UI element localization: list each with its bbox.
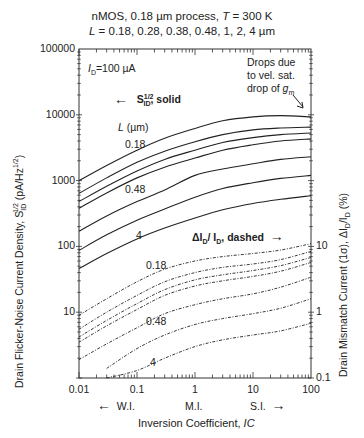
tick-label: 10000 [46,108,75,120]
region-weak-inversion: ← W.I. [97,397,135,413]
tick-label: 0.1 [316,371,331,383]
mismatch-curve [107,299,311,369]
tick-label: 10 [233,383,273,395]
curve-label-dashed-048: 0.48 [146,315,166,327]
curve-label-dashed-018: 0.18 [146,259,166,271]
tick-label: 10 [316,239,328,251]
mismatch-curve [107,323,311,378]
noise-curve [79,116,311,181]
tick-label: 1 [316,305,322,317]
region-strong-inversion: S.I. → [250,397,286,413]
noise-curve [79,133,311,202]
plot-area [0,0,364,438]
solid-legend-label: ← S1/2ID, solid [114,90,181,107]
noise-curve [79,157,311,231]
velocity-saturation-note: Drops due to vel. sat. drop of gm [247,56,295,99]
y-axis-right-label: Drain Mismatch Current (1σ), ΔID/ID (%) [337,193,351,377]
tick-label: 100 [57,239,75,251]
x-axis-label: Inversion Coefficient, IC [138,417,255,429]
tick-label: 10 [63,305,75,317]
curve-label-solid-4: 4 [136,229,142,241]
y-axis-left-label: Drain Flicker-Noise Current Density, SID… [12,155,27,388]
dashed-legend-label: ΔID/ ID, dashed → [192,228,284,245]
tick-label: 100 [291,383,331,395]
curve-label-solid-048: 0.48 [125,183,145,195]
region-moderate-inversion: M.I. [185,400,203,412]
mismatch-curve [79,257,311,337]
mismatch-curve [79,262,311,342]
mismatch-curve [79,277,311,359]
curve-label-dashed-4: 4 [150,356,156,368]
tick-label: 0.01 [59,383,99,395]
curve-label-solid-018: 0.18 [125,138,145,150]
tick-label: 1000 [52,174,75,186]
mismatch-curve [79,251,311,329]
tick-label: 1 [175,383,215,395]
length-label: L (µm) [118,121,149,133]
tick-label: 0.1 [117,383,157,395]
tick-label: 100000 [40,42,75,54]
drain-current-label: ID=100 µA [88,62,136,76]
